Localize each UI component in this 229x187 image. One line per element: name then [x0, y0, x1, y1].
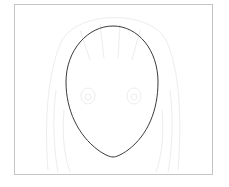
- hair-strands-right-icon: [156, 90, 172, 172]
- right-eye-icon: [127, 88, 141, 104]
- face-outline-icon: [66, 26, 158, 157]
- left-eye-icon: [81, 88, 95, 104]
- bangs-icon: [80, 24, 140, 60]
- hair-strands-left-icon: [54, 90, 70, 172]
- drawing-canvas: [0, 0, 229, 187]
